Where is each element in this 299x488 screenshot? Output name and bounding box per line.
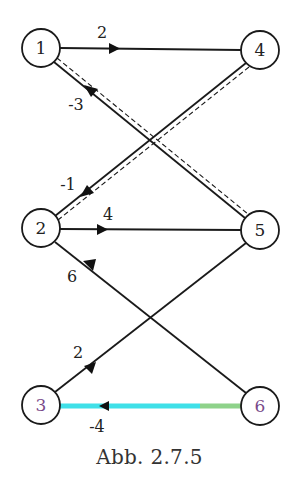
arrow-right-icon [97,224,108,235]
node-4: 4 [241,31,279,69]
edge-weight-2-5: 4 [103,205,113,224]
edge-1-4: 2 [60,23,241,55]
node-3: 3 [22,386,60,424]
arrow-right-icon [109,43,120,54]
node-label-1: 1 [36,38,47,58]
edge-weight-2-6: 6 [67,267,77,286]
node-1: 1 [22,29,60,67]
edge-6-3: -4 [60,401,241,436]
node-label-5: 5 [255,220,266,240]
node-label-2: 2 [36,218,47,238]
node-label-6: 6 [255,396,266,416]
node-5: 5 [241,211,279,249]
graph-diagram: 2 -3 -1 4 6 2 -4 1 [0,0,299,488]
edge-weight-6-3: -4 [89,417,105,436]
edge-weight-3-5: 2 [73,343,83,362]
arrow-left-icon [99,401,109,411]
edge-weight-1-4: 2 [97,23,107,42]
figure-caption: Abb. 2.7.5 [0,445,299,469]
node-label-4: 4 [255,40,266,60]
edge-weight-4-2: -1 [60,175,76,194]
node-2: 2 [22,209,60,247]
node-6: 6 [241,387,279,425]
edge-weight-5-1: -3 [68,95,84,114]
edge-2-5: 4 [60,205,241,236]
node-label-3: 3 [36,395,47,415]
